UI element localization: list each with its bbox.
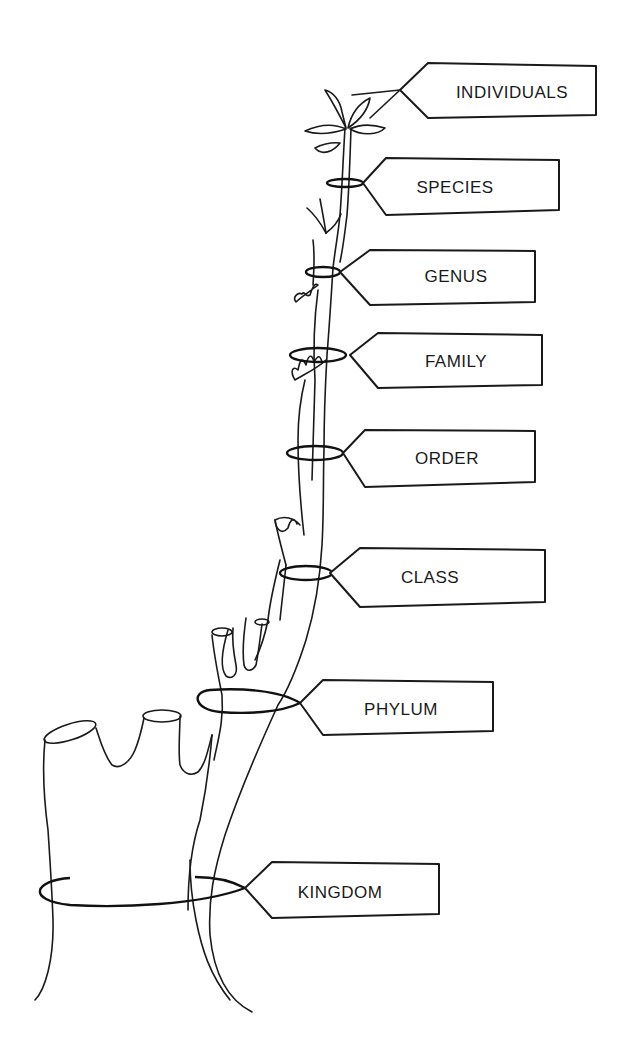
rank-tags: INDIVIDUALS SPECIES GENUS FAMILY ORDER C… — [245, 63, 596, 918]
label-species: SPECIES — [416, 178, 493, 197]
label-individuals: INDIVIDUALS — [456, 83, 568, 102]
label-family: FAMILY — [425, 352, 487, 371]
label-genus: GENUS — [425, 267, 488, 286]
order-ring — [287, 446, 343, 460]
label-class: CLASS — [401, 568, 459, 587]
tag-family: FAMILY — [350, 333, 542, 388]
species-ring — [327, 179, 363, 187]
tag-genus: GENUS — [340, 250, 535, 305]
family-ring — [290, 348, 346, 362]
tag-phylum: PHYLUM — [300, 680, 493, 735]
label-order: ORDER — [415, 449, 479, 468]
label-phylum: PHYLUM — [364, 700, 438, 719]
taxonomy-tree-diagram: INDIVIDUALS SPECIES GENUS FAMILY ORDER C… — [0, 0, 632, 1041]
genus-ring — [306, 267, 340, 277]
tag-individuals: INDIVIDUALS — [400, 63, 596, 118]
tag-order: ORDER — [343, 430, 535, 487]
class-ring — [280, 566, 332, 580]
tag-class: CLASS — [330, 548, 545, 607]
tag-kingdom: KINGDOM — [245, 862, 439, 918]
tag-species: SPECIES — [363, 158, 559, 215]
label-kingdom: KINGDOM — [298, 883, 383, 902]
kingdom-ring — [40, 877, 245, 906]
